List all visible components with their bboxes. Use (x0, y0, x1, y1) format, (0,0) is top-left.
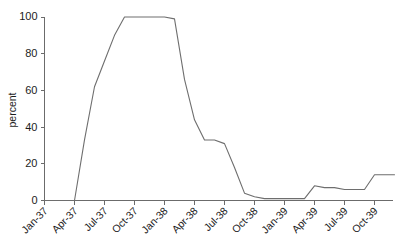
x-tick-label: Apr-38 (169, 204, 200, 235)
y-axis-title: percent (6, 92, 18, 127)
chart-container: 020406080100 percent Jan-37Apr-37Jul-37O… (0, 0, 397, 251)
y-tick-label: 40 (25, 121, 37, 133)
line-chart: 020406080100 percent Jan-37Apr-37Jul-37O… (0, 0, 397, 251)
x-tick-label: Oct-38 (229, 204, 260, 235)
x-tick-label: Oct-37 (109, 204, 140, 235)
y-tick-label: 20 (25, 157, 37, 169)
x-axis-ticks (45, 201, 375, 205)
x-tick-label: Apr-39 (289, 204, 320, 235)
series-line-percent (45, 17, 395, 201)
y-tick-label: 0 (31, 194, 37, 206)
x-tick-label: Jan-39 (259, 204, 290, 235)
x-tick-label: Jul-37 (81, 204, 110, 233)
x-axis-labels: Jan-37Apr-37Jul-37Oct-37Jan-38Apr-38Jul-… (19, 204, 380, 235)
x-tick-label: Jul-39 (321, 204, 350, 233)
y-tick-label: 100 (19, 10, 37, 22)
x-tick-label: Jan-37 (19, 204, 50, 235)
x-tick-label: Apr-37 (49, 204, 80, 235)
y-axis-ticks: 020406080100 (19, 10, 44, 206)
x-tick-label: Jan-38 (139, 204, 170, 235)
y-tick-label: 60 (25, 84, 37, 96)
x-tick-label: Oct-39 (349, 204, 380, 235)
x-tick-label: Jul-38 (201, 204, 230, 233)
y-tick-label: 80 (25, 47, 37, 59)
